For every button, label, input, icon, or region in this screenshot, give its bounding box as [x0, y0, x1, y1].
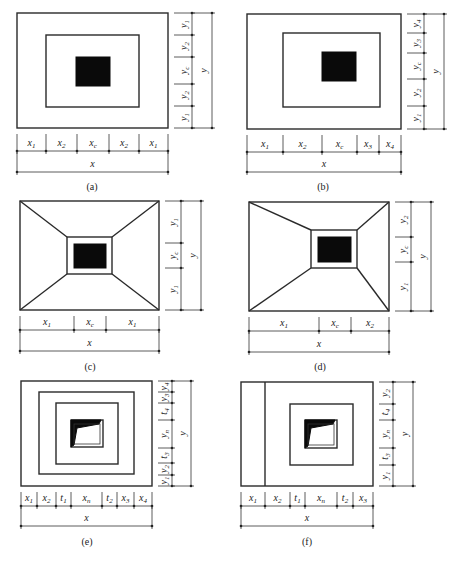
- dimension-label-x: x1: [128, 316, 137, 328]
- dimension-label-y: t4: [379, 408, 391, 415]
- dimension-label-y: t3: [158, 452, 170, 459]
- dimension-tick: [372, 525, 375, 528]
- dimension-tick: [19, 350, 22, 353]
- dimension-label-x: x4: [138, 492, 147, 504]
- dimension-label-x: x2: [57, 137, 66, 149]
- step-outline: [290, 404, 353, 465]
- panel-caption: (a): [86, 181, 97, 193]
- dimension-tick: [246, 171, 249, 174]
- dimension-label-y: yc: [397, 245, 409, 254]
- slope-edge: [249, 202, 311, 230]
- dimension-tick: [76, 150, 79, 153]
- panel-b: x1x2xcx3x4xy4y3ycy2y1y(b): [246, 13, 447, 193]
- dimension-tick: [264, 505, 267, 508]
- step-outline-1: [39, 392, 134, 474]
- dimension-label-y-total: y: [187, 253, 198, 259]
- panel-caption: (d): [314, 361, 326, 373]
- dimension-label-y: y2: [178, 91, 190, 100]
- dimension-label-y: yc: [178, 66, 190, 75]
- dimension-label-x: t2: [342, 492, 349, 504]
- dimension-tick: [248, 351, 251, 354]
- dimension-label-y: y3: [158, 393, 170, 402]
- dimension-tick: [304, 505, 307, 508]
- dimension-label-y: y2: [379, 389, 391, 398]
- dimension-label-y: y1: [397, 283, 409, 292]
- dimension-tick: [356, 151, 359, 154]
- dimension-label-x: x1: [149, 137, 158, 149]
- dimension-label-y: y1: [167, 285, 179, 294]
- dimension-tick: [412, 381, 415, 384]
- column-section: [74, 244, 106, 268]
- dimension-label-y: yc: [410, 61, 422, 70]
- dimension-label-x: xc: [330, 317, 339, 329]
- dimension-label-x: x3: [358, 492, 367, 504]
- dimension-label-x-total: x: [89, 158, 95, 169]
- dimension-label-y: y2: [178, 42, 190, 51]
- dimension-tick: [443, 13, 446, 16]
- dimension-tick: [321, 151, 324, 154]
- panel-d: x1xcx2xy2ycy1y(d): [248, 201, 434, 373]
- dimension-label-y: y1: [167, 218, 179, 227]
- dimension-label-y-total: y: [417, 254, 428, 260]
- dimension-tick: [423, 52, 426, 55]
- dimension-tick: [171, 402, 174, 405]
- dimension-label-x: x1: [27, 137, 36, 149]
- dimension-tick: [388, 351, 391, 354]
- dimension-label-y: yn: [379, 430, 391, 439]
- dimension-tick: [108, 150, 111, 153]
- slope-edge: [249, 268, 311, 311]
- dimension-tick: [133, 505, 136, 508]
- dimension-label-x: x1: [260, 138, 269, 150]
- panel-f: x1x2t1xnt2x3xy2t4ynt3y1y(f): [240, 381, 416, 548]
- panel-caption: (e): [81, 536, 92, 548]
- dimension-tick: [101, 505, 104, 508]
- dimension-tick: [167, 171, 170, 174]
- dimension-tick: [423, 78, 426, 81]
- slope-edge: [112, 201, 159, 237]
- dimension-label-x: xc: [335, 138, 344, 150]
- dimension-tick: [171, 474, 174, 477]
- dimension-label-x: x2: [273, 492, 282, 504]
- dimension-tick: [171, 462, 174, 465]
- dimension-tick: [410, 236, 413, 239]
- dimension-tick: [191, 105, 194, 108]
- dimension-tick: [105, 329, 108, 332]
- dimension-label-y: y1: [158, 477, 170, 486]
- dimension-tick: [151, 525, 154, 528]
- dimension-tick: [352, 505, 355, 508]
- dimension-label-y: t4: [158, 408, 170, 415]
- step-outline-2: [56, 403, 118, 464]
- dimension-label-x: t2: [106, 492, 113, 504]
- dimension-label-x: xc: [85, 316, 94, 328]
- dimension-label-x: xn: [316, 492, 325, 504]
- dimension-label-x-total: x: [83, 512, 89, 523]
- panel-caption: (b): [317, 181, 329, 193]
- dimension-tick: [191, 83, 194, 86]
- slope-edge: [357, 202, 389, 230]
- dimension-tick: [211, 127, 214, 130]
- dimension-label-y: y2: [397, 215, 409, 224]
- dimension-label-y: y1: [178, 113, 190, 122]
- dimension-tick: [36, 505, 39, 508]
- dimension-tick: [336, 505, 339, 508]
- slope-edge: [20, 201, 67, 237]
- dimension-tick: [191, 56, 194, 59]
- dimension-tick: [289, 505, 292, 508]
- column-section: [318, 237, 351, 262]
- dimension-tick: [240, 525, 243, 528]
- dimension-label-x-total: x: [316, 338, 322, 349]
- dimension-tick: [191, 34, 194, 37]
- dimension-tick: [443, 128, 446, 131]
- dimension-tick: [423, 32, 426, 35]
- column-socket: [305, 420, 337, 448]
- dimension-label-y-total: y: [177, 431, 188, 437]
- dimension-tick: [70, 505, 73, 508]
- dimension-label-x: t1: [294, 492, 300, 504]
- dimension-label-x: xn: [82, 492, 91, 504]
- foundation-diagrams: x1x2xcx2x1xy1y2ycy2y1y(a)x1x2xcx3x4xy4y3…: [0, 0, 463, 562]
- dimension-label-x: x2: [298, 138, 307, 150]
- dimension-tick: [423, 105, 426, 108]
- dimension-tick: [116, 505, 119, 508]
- dimension-tick: [200, 309, 203, 312]
- dimension-label-y-total: y: [430, 69, 441, 75]
